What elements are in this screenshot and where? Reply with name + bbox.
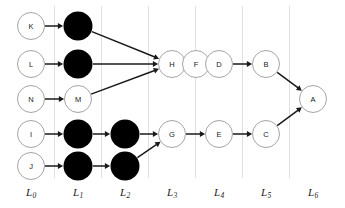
arrowhead xyxy=(58,61,63,67)
node-solid-n_b6[interactable] xyxy=(111,152,140,181)
edge--to-H xyxy=(92,32,159,60)
node-solid-n_b1[interactable] xyxy=(64,12,93,41)
node-I[interactable]: I xyxy=(18,121,45,148)
node-label: M xyxy=(75,95,81,104)
arrowhead xyxy=(105,163,110,169)
edge--to-G xyxy=(137,142,160,158)
diagram-canvas: KLNIJMHGFEDCBA L0L1L2L3L4L5L6 xyxy=(0,0,345,208)
node-label: D xyxy=(216,60,222,69)
arrowhead xyxy=(105,131,110,137)
node-circle-filled xyxy=(64,12,93,41)
node-H[interactable]: H xyxy=(159,51,186,78)
layer-label-index: 0 xyxy=(32,191,36,200)
layer-label-index: 4 xyxy=(220,191,224,200)
arrowhead xyxy=(247,61,252,67)
layer-label-L6: L6 xyxy=(308,186,318,198)
arrowhead xyxy=(58,163,63,169)
layer-label-L2: L2 xyxy=(120,186,130,198)
node-label: E xyxy=(216,130,221,139)
node-circle-filled xyxy=(64,50,93,79)
node-label: K xyxy=(28,22,33,31)
node-label: C xyxy=(263,130,269,139)
node-label: B xyxy=(263,60,268,69)
layer-label-L4: L4 xyxy=(214,186,224,198)
node-label: L xyxy=(29,60,33,69)
node-D[interactable]: D xyxy=(206,51,233,78)
node-K[interactable]: K xyxy=(18,13,45,40)
edge-K-to- xyxy=(45,23,63,29)
node-circle-filled xyxy=(111,152,140,181)
node-circle-filled xyxy=(64,152,93,181)
node-label: H xyxy=(169,60,174,69)
arrowhead xyxy=(153,61,158,67)
layer-label-index: 3 xyxy=(173,191,177,200)
edge-J-to- xyxy=(45,163,63,169)
node-circle-filled xyxy=(64,120,93,149)
arrowhead xyxy=(59,96,64,102)
node-solid-n_b3[interactable] xyxy=(64,120,93,149)
edge-I-to- xyxy=(45,131,63,137)
node-solid-n_b2[interactable] xyxy=(64,50,93,79)
node-A[interactable]: A xyxy=(300,86,327,113)
node-label: J xyxy=(29,162,33,171)
node-B[interactable]: B xyxy=(253,51,280,78)
layer-label-index: 2 xyxy=(126,191,130,200)
layer-label-index: 5 xyxy=(267,191,271,200)
node-label: I xyxy=(30,130,32,139)
node-label: N xyxy=(28,95,33,104)
arrowhead xyxy=(58,131,63,137)
node-label: F xyxy=(194,60,199,69)
layer-label-index: 6 xyxy=(314,191,318,200)
node-solid-n_b4[interactable] xyxy=(64,152,93,181)
node-solid-n_b5[interactable] xyxy=(111,120,140,149)
node-M[interactable]: M xyxy=(65,86,92,113)
node-J[interactable]: J xyxy=(18,153,45,180)
node-C[interactable]: C xyxy=(253,121,280,148)
arrowhead xyxy=(200,131,205,137)
nodes: KLNIJMHGFEDCBA xyxy=(18,12,327,181)
layer-label-L1: L1 xyxy=(73,186,83,198)
dag-svg: KLNIJMHGFEDCBA xyxy=(0,0,345,208)
edge--to-G xyxy=(140,131,158,137)
layer-label-L5: L5 xyxy=(261,186,271,198)
node-label: A xyxy=(310,95,315,104)
edge-L-to- xyxy=(45,61,63,67)
arrowhead xyxy=(153,131,158,137)
node-L[interactable]: L xyxy=(18,51,45,78)
node-circle-filled xyxy=(111,120,140,149)
node-E[interactable]: E xyxy=(206,121,233,148)
node-label: G xyxy=(169,130,175,139)
arrowhead xyxy=(58,23,63,29)
node-N[interactable]: N xyxy=(18,86,45,113)
layer-label-L0: L0 xyxy=(26,186,36,198)
layer-label-index: 1 xyxy=(79,191,83,200)
arrowhead xyxy=(247,131,252,137)
node-G[interactable]: G xyxy=(159,121,186,148)
layer-label-L3: L3 xyxy=(167,186,177,198)
